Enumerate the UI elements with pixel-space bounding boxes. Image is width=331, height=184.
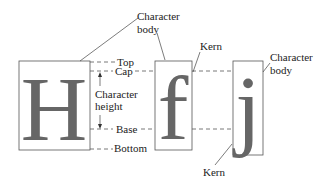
label-character-body-right-1: Character bbox=[270, 51, 313, 63]
label-character-body-2: body bbox=[137, 23, 160, 35]
label-kern-bottom: Kern bbox=[203, 166, 225, 178]
label-character-height-1: Character bbox=[95, 88, 138, 100]
leader-kern-bottom bbox=[215, 144, 232, 165]
label-cap: Cap bbox=[115, 65, 133, 77]
glyph-h: H bbox=[21, 58, 87, 160]
label-bottom: Bottom bbox=[114, 142, 147, 154]
leader-character-body-h bbox=[80, 18, 138, 61]
leader-character-body-j bbox=[263, 63, 270, 72]
arrow-up-icon bbox=[98, 72, 102, 77]
label-kern-top: Kern bbox=[200, 40, 222, 52]
typography-diagram: H f j Character body Kern Character body… bbox=[0, 0, 331, 184]
glyph-j: j bbox=[232, 57, 261, 159]
label-character-height-2: height bbox=[95, 100, 123, 112]
label-character-body-1: Character bbox=[137, 10, 180, 22]
arrow-down-icon bbox=[98, 124, 102, 129]
leader-kern-top bbox=[193, 52, 200, 72]
label-base: Base bbox=[116, 123, 138, 135]
glyph-f: f bbox=[158, 57, 189, 159]
label-character-body-right-2: body bbox=[270, 64, 293, 76]
leader-character-body-f bbox=[157, 33, 165, 60]
